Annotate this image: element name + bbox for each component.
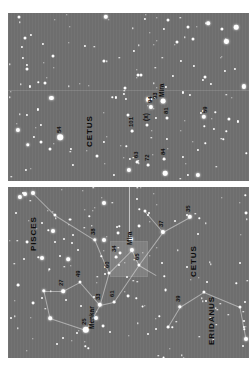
background-star [101,197,102,198]
star-point [202,115,206,119]
background-star [69,26,70,27]
star-point [31,191,35,195]
background-star [123,93,125,95]
background-star [196,26,197,27]
star-point [42,289,45,292]
background-star [226,94,227,95]
background-star [96,276,97,277]
background-star [36,108,38,110]
constellation-label-cetus: CETUS [86,115,94,147]
background-star [164,275,165,276]
background-star [159,316,160,317]
background-star [163,28,165,30]
star-point [98,303,102,307]
background-star [9,96,10,97]
star-point [146,124,149,127]
background-star [84,45,86,47]
background-star [152,154,153,155]
background-star [30,200,31,201]
background-star [243,320,245,322]
background-star [102,201,106,205]
background-star [136,298,137,299]
background-star [126,295,129,298]
background-star [26,64,28,66]
background-star [140,187,141,188]
background-star [68,86,69,87]
background-star [199,217,200,218]
background-star [177,250,178,251]
background-star [120,145,121,146]
background-star [197,233,199,235]
background-star [197,149,199,151]
background-star [86,150,87,151]
star-chart-figure: 54101(x)9493Mira8159847263CETUS 25Menkar… [0,0,249,368]
star-point [57,134,63,140]
constellation-line-12 [63,282,80,292]
background-star [211,118,212,119]
background-star [138,225,141,228]
background-star [244,301,246,303]
constellation-line-3 [100,273,110,305]
background-star [111,202,112,203]
detail-star-label-x: (x) [143,113,150,121]
background-star [72,164,74,166]
background-star [70,151,71,152]
background-star [123,87,126,90]
background-star [179,178,180,179]
constellation-line-2 [95,240,110,273]
background-star [223,139,224,140]
background-star [172,75,174,77]
background-star [42,43,44,45]
background-star [204,126,205,127]
background-star [35,127,36,128]
background-star [68,42,69,43]
background-star [43,81,46,84]
equator-line [8,90,249,91]
background-star [115,96,117,98]
background-star [149,32,150,33]
background-star [113,174,115,176]
detail-star-label-72: 72 [144,154,150,161]
background-star [180,130,181,131]
background-star [17,240,18,241]
background-star [133,50,135,52]
background-star [176,321,177,322]
background-star [133,280,134,281]
wide-star-label-38: 38 [90,228,96,235]
wide-star-label-39: 39 [175,295,181,302]
background-star [109,331,111,333]
background-star [237,120,239,122]
background-star [155,117,157,119]
background-star [104,163,105,164]
star-point [131,130,134,133]
background-star [26,68,29,71]
star-point [163,158,166,161]
star-point [136,161,139,164]
background-star [123,157,124,158]
background-star [220,303,221,304]
constellation-label-eridanus: ERIDANUS [208,296,216,345]
background-star [190,279,191,280]
constellation-line-11 [44,291,63,292]
background-star [92,210,93,211]
background-star [22,57,24,59]
background-star [40,123,42,125]
background-star [41,222,43,224]
background-star [213,128,215,130]
background-star [71,242,73,244]
background-star [16,123,17,124]
background-star [125,98,127,100]
background-star [243,311,244,312]
background-star [26,114,28,116]
background-star [102,238,106,242]
background-star [205,143,206,144]
background-star [182,91,184,93]
background-star [169,348,170,349]
background-star [84,227,85,228]
background-star [191,37,194,40]
background-star [38,82,39,83]
wide-star-label-37: 37 [158,220,164,227]
background-star [151,130,152,131]
background-star [53,67,54,68]
background-star [206,281,208,283]
